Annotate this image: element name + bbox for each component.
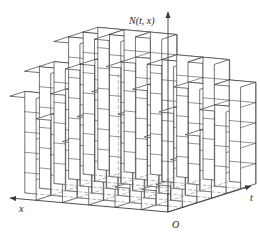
- axis-label-x: x: [18, 203, 24, 214]
- scene-geometry: [10, 27, 255, 212]
- figure-canvas: N(t, x) t x O: [0, 0, 261, 250]
- axis-label-n: N(t, x): [128, 15, 155, 27]
- step-surface-drawing: N(t, x) t x O: [0, 0, 261, 250]
- axis-label-origin: O: [172, 219, 179, 230]
- axis-label-t: t: [250, 192, 253, 203]
